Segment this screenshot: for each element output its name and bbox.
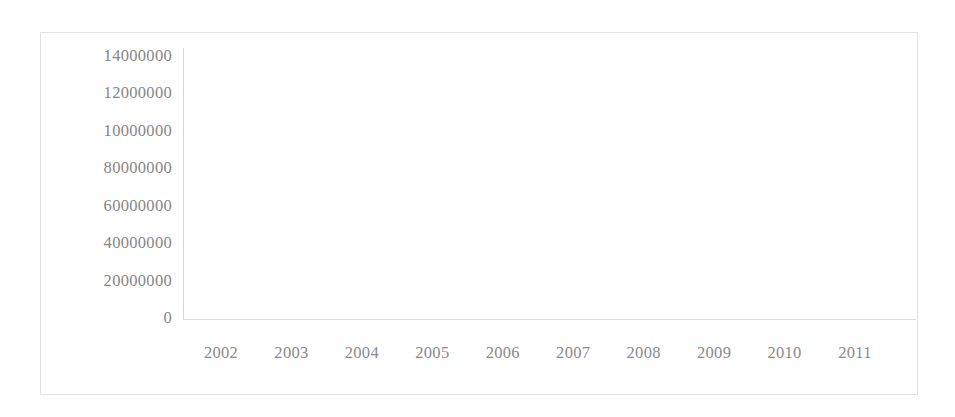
x-tick-label: 2005 [415,345,449,362]
x-tick-label: 2002 [204,345,238,362]
x-tick-label: 2006 [486,345,520,362]
x-tick-label: 2010 [767,345,801,362]
x-tick-label: 2004 [345,345,379,362]
x-tick-label: 2007 [556,345,590,362]
chart-figure: 1400000012000000100000008000000060000000… [0,0,955,417]
x-tick-label: 2008 [627,345,661,362]
x-tick-label: 2003 [274,345,308,362]
plot-area: 1400000012000000100000008000000060000000… [0,0,955,417]
x-tick-label: 2009 [697,345,731,362]
x-tick-label: 2011 [838,345,872,362]
x-axis-tick-labels: 2002200320042005200620072008200920102011 [183,345,916,375]
